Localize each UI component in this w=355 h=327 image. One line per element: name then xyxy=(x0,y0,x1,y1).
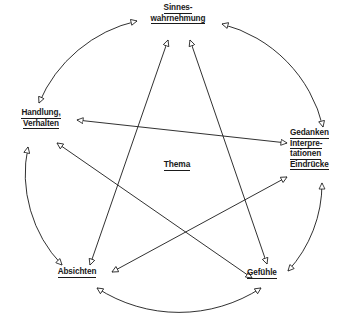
node-gefuehle: Gefühle xyxy=(247,268,309,279)
chord-sinneswahrnehmung-absichten xyxy=(90,40,168,265)
arc-sinneswahrnehmung-gedanken xyxy=(222,24,323,127)
arc-gefuehle-absichten xyxy=(97,288,261,312)
node-sinneswahrnehmung-line-1: Sinnes- xyxy=(164,3,193,14)
node-handlung-line-2: Verhalten xyxy=(23,119,59,130)
node-gedanken-line-3: tationen xyxy=(290,149,321,160)
node-gedanken-line-2: Interpre- xyxy=(290,139,322,150)
node-absichten-line-1: Absichten xyxy=(58,267,97,278)
diagram-canvas: Sinnes- wahrnehmung Handlung, Verhalten … xyxy=(0,0,355,327)
arc-handlung-sinneswahrnehmung xyxy=(39,21,137,103)
node-handlung-line-1: Handlung, xyxy=(21,108,60,119)
node-sinneswahrnehmung: Sinnes- wahrnehmung xyxy=(137,3,219,24)
node-sinneswahrnehmung-line-2: wahrnehmung xyxy=(151,14,206,25)
chord-handlung-gedanken xyxy=(77,120,287,143)
arc-gedanken-gefuehle xyxy=(288,183,322,271)
chord-sinneswahrnehmung-gefuehle xyxy=(190,40,267,264)
node-absichten: Absichten xyxy=(38,267,116,278)
node-gedanken-line-1: Gedanken xyxy=(290,128,329,139)
node-gedanken-interpretationen-eindruecke: Gedanken Interpre- tationen Eindrücke xyxy=(290,128,354,170)
node-handlung-verhalten: Handlung, Verhalten xyxy=(2,108,80,129)
node-gefuehle-line-1: Gefühle xyxy=(247,268,277,279)
node-thema-label: Thema xyxy=(164,160,191,171)
chord-absichten-gedanken xyxy=(112,177,287,272)
node-thema: Thema xyxy=(137,159,217,171)
node-gedanken-line-4: Eindrücke xyxy=(290,160,329,171)
arc-absichten-handlung xyxy=(25,147,62,265)
